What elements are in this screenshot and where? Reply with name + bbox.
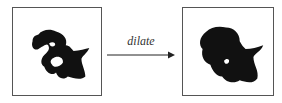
input-blob-shape — [13, 8, 101, 95]
operation-label: dilate — [110, 34, 172, 49]
output-blob-shape — [183, 8, 273, 95]
input-image-panel — [12, 7, 102, 96]
arrow-right-icon — [106, 50, 176, 60]
output-image-panel — [182, 7, 274, 96]
